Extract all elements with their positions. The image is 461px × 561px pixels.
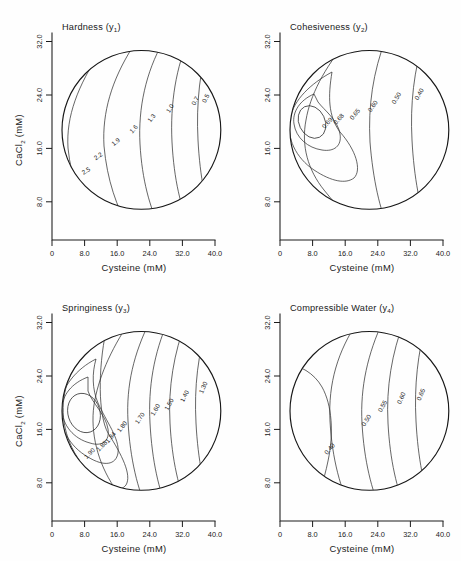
svg-text:1.70: 1.70	[133, 411, 146, 425]
svg-text:0.60: 0.60	[366, 99, 379, 113]
x-tick-label: 40.0	[208, 249, 222, 258]
svg-text:1.40: 1.40	[178, 388, 190, 403]
x-tick-label: 24.0	[143, 530, 157, 539]
x-tick-label: 8.0	[307, 249, 317, 258]
panel-compressible-water: Compressible Water (y4) 32.0 24.0 16.0 8…	[228, 281, 458, 561]
panel-cohesiveness: Cohesiveness (y2) 32.0 24.0 16.0 8.0 0	[228, 0, 458, 280]
x-tick-label: 16.0	[110, 249, 124, 258]
y-tick-label: 16.0	[263, 141, 272, 155]
x-tick-label: 0	[278, 249, 282, 258]
x-axis-ticks	[52, 521, 215, 527]
y-tick-label: 8.0	[35, 197, 44, 207]
y-tick-label: 24.0	[263, 88, 272, 102]
y-tick-label: 16.0	[35, 422, 44, 436]
panel-title-springiness: Springiness (y3)	[62, 303, 130, 314]
x-tick-label: 24.0	[371, 249, 385, 258]
x-tick-label: 32.0	[403, 530, 417, 539]
svg-text:1.60: 1.60	[149, 402, 161, 417]
panel-hardness: Hardness (y1) 32.0 24.0 16.0 8.0 CaCl2 (…	[0, 0, 230, 280]
y-tick-label: 32.0	[263, 34, 272, 48]
contour-lines-cohesiveness	[289, 38, 428, 230]
x-tick-label: 24.0	[143, 249, 157, 258]
x-tick-label: 24.0	[371, 530, 385, 539]
y-tick-label: 24.0	[35, 369, 44, 383]
x-tick-label: 32.0	[175, 249, 189, 258]
design-region-boundary	[290, 332, 449, 491]
x-tick-label: 16.0	[338, 249, 352, 258]
x-tick-label: 0	[278, 530, 282, 539]
y-axis-ticks	[274, 42, 280, 202]
contour-labels-cohesiveness: 0.40 0.50 0.60 0.65 0.68 0.69	[320, 87, 425, 130]
x-axis-title: Cysteine (mM)	[330, 543, 395, 554]
x-tick-label: 16.0	[110, 530, 124, 539]
x-tick-label: 8.0	[79, 249, 89, 258]
panel-compressible-water-svg: Compressible Water (y4) 32.0 24.0 16.0 8…	[228, 281, 458, 561]
svg-text:2.2: 2.2	[92, 150, 104, 161]
y-axis-title: CaCl2 (mM)	[13, 395, 26, 447]
x-tick-label: 40.0	[436, 530, 450, 539]
svg-text:0.40: 0.40	[323, 441, 337, 455]
panel-hardness-svg: Hardness (y1) 32.0 24.0 16.0 8.0 CaCl2 (…	[0, 0, 230, 280]
svg-text:1.6: 1.6	[128, 123, 139, 135]
x-axis-title: Cysteine (mM)	[330, 262, 395, 273]
svg-text:0.65: 0.65	[348, 107, 361, 121]
y-tick-label: 32.0	[35, 315, 44, 329]
svg-text:0.40: 0.40	[413, 87, 425, 102]
panel-springiness-svg: Springiness (y3) 32.0 24.0 16.0 8.0 CaCl…	[0, 281, 230, 561]
y-axis-ticks	[46, 42, 52, 202]
contour-labels-hardness: 0.5 0.7 1.0 1.3 1.6 1.9 2.2 2.5	[80, 92, 211, 176]
y-tick-label: 8.0	[263, 478, 272, 488]
x-axis-ticks	[52, 240, 215, 246]
x-axis-title: Cysteine (mM)	[102, 262, 167, 273]
y-axis-ticks	[46, 323, 52, 483]
svg-text:1.30: 1.30	[197, 380, 209, 394]
x-tick-label: 8.0	[79, 530, 89, 539]
svg-text:0.68: 0.68	[332, 111, 346, 125]
contour-labels-springiness: 1.30 1.40 1.50 1.60 1.70 1.80 1.84 1.88 …	[83, 380, 209, 460]
svg-text:2.5: 2.5	[80, 165, 92, 176]
x-tick-label: 0	[50, 249, 54, 258]
panel-title-compressible-water: Compressible Water (y4)	[290, 303, 394, 314]
x-axis-ticks	[280, 521, 443, 527]
figure-container: Hardness (y1) 32.0 24.0 16.0 8.0 CaCl2 (…	[0, 0, 461, 561]
design-region-boundary	[62, 332, 221, 491]
svg-text:1.3: 1.3	[146, 112, 157, 124]
x-axis-title: Cysteine (mM)	[102, 543, 167, 554]
svg-text:1.0: 1.0	[164, 102, 175, 114]
panel-title-cohesiveness: Cohesiveness (y2)	[290, 22, 368, 33]
y-tick-label: 24.0	[263, 369, 272, 383]
design-region-boundary	[62, 50, 221, 209]
x-tick-label: 32.0	[403, 249, 417, 258]
x-axis-ticks	[280, 240, 443, 246]
y-tick-label: 16.0	[263, 422, 272, 436]
panel-springiness: Springiness (y3) 32.0 24.0 16.0 8.0 CaCl…	[0, 281, 230, 561]
panel-title-hardness: Hardness (y1)	[62, 22, 121, 33]
contour-labels-compressible-water: 0.65 0.60 0.55 0.50 0.40	[323, 387, 427, 456]
svg-text:0.60: 0.60	[395, 391, 407, 405]
y-tick-label: 8.0	[35, 478, 44, 488]
x-tick-label: 32.0	[175, 530, 189, 539]
svg-text:0.5: 0.5	[200, 92, 211, 103]
svg-text:0.55: 0.55	[376, 399, 388, 414]
svg-text:0.65: 0.65	[415, 387, 426, 401]
x-tick-label: 0	[50, 530, 54, 539]
y-axis-title: CaCl2 (mM)	[13, 114, 26, 166]
svg-text:1.9: 1.9	[110, 136, 122, 147]
x-tick-label: 8.0	[307, 530, 317, 539]
x-tick-label: 40.0	[208, 530, 222, 539]
y-tick-label: 8.0	[263, 197, 272, 207]
svg-text:0.50: 0.50	[390, 91, 403, 106]
y-tick-label: 16.0	[35, 141, 44, 155]
x-tick-label: 40.0	[436, 249, 450, 258]
x-tick-label: 16.0	[338, 530, 352, 539]
y-tick-label: 32.0	[263, 315, 272, 329]
contour-lines-compressible-water	[284, 321, 432, 511]
y-tick-label: 32.0	[35, 34, 44, 48]
panel-cohesiveness-svg: Cohesiveness (y2) 32.0 24.0 16.0 8.0 0	[228, 0, 458, 280]
y-tick-label: 24.0	[35, 88, 44, 102]
svg-text:1.50: 1.50	[163, 397, 175, 412]
y-axis-ticks	[274, 323, 280, 483]
svg-text:1.80: 1.80	[115, 419, 128, 433]
